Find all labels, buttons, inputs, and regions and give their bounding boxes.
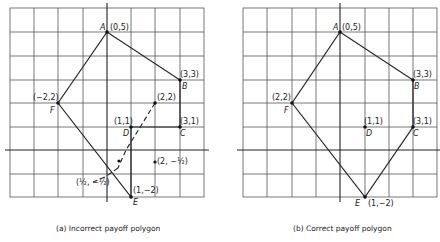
points-a: [56, 30, 182, 199]
caption-b: (b) Correct payoff polygon: [293, 224, 392, 233]
coord-label-a-E: (1,−2): [133, 186, 159, 195]
points-b: [290, 30, 415, 199]
vertex-label-b-F: F: [284, 106, 289, 115]
coord-label-b-B: (3,3): [413, 70, 432, 79]
point-label-half-neg-half: (½, −½): [76, 178, 110, 187]
coord-label-b-D: (1,1): [364, 117, 383, 126]
coord-label-a-D: (1,1): [114, 117, 133, 126]
point-label-2-neg-half: (2, −½): [157, 157, 188, 166]
coord-label-b-E: (1,−2): [368, 199, 394, 208]
vertex-label-b-C: C: [413, 129, 419, 138]
polygon-a: [58, 32, 180, 197]
vertex-label-a-D: D: [123, 129, 129, 138]
coord-label-a-B: (3,3): [180, 70, 199, 79]
vertex-label-a-B: B: [182, 82, 188, 91]
coord-label-a-C: (3,1): [180, 117, 199, 126]
vertex-label-b-A: A: [332, 23, 338, 32]
dashed-path-a: [93, 103, 155, 182]
point-label-2-2: (2,2): [157, 93, 176, 102]
payoff-polygon-figure: A (0,5) (3,3) B (3,1) C (1,1) D (1,−2) E…: [0, 0, 440, 242]
caption-a: (a) Incorrect payoff polygon: [56, 224, 161, 233]
vertex-label-a-C: C: [180, 129, 186, 138]
polygon-b: [292, 32, 413, 197]
vertex-label-b-E: E: [355, 199, 361, 208]
coord-label-b-A: (0,5): [342, 23, 361, 32]
vertex-label-a-A: A: [99, 23, 105, 32]
coord-label-a-A: (0,5): [110, 23, 129, 32]
vertex-label-b-D: D: [366, 129, 372, 138]
vertex-label-a-E: E: [133, 198, 139, 207]
vertex-label-a-F: F: [50, 106, 55, 115]
coord-label-b-C: (3,1): [413, 117, 432, 126]
coord-label-b-F: (2,2): [272, 93, 291, 102]
coord-label-a-F: (−2,2): [33, 93, 59, 102]
vertex-label-b-B: B: [414, 82, 420, 91]
